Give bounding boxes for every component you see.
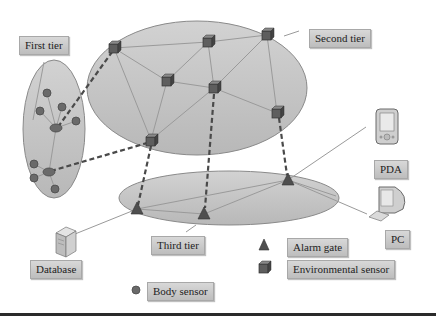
body-hub-icon xyxy=(43,168,55,176)
environmental-sensor-icon xyxy=(272,106,284,118)
first-tier-label: First tier xyxy=(19,36,69,55)
environmental-sensor-icon xyxy=(162,74,174,86)
legend-alarm-gate-label: Alarm gate xyxy=(287,238,348,257)
legend-body-sensor-icon xyxy=(132,286,140,294)
pda-icon xyxy=(376,109,398,144)
environmental-sensor-icon xyxy=(209,81,221,93)
body-sensor-icon xyxy=(51,185,59,193)
bottom-rule xyxy=(0,313,436,316)
third-tier-ellipse xyxy=(119,171,339,225)
pc-label: PC xyxy=(385,230,410,249)
environmental-sensor-icon xyxy=(109,41,121,53)
body-hub-icon xyxy=(50,124,62,132)
body-sensor-icon xyxy=(72,117,80,125)
third-tier-label: Third tier xyxy=(151,236,205,255)
body-sensor-icon xyxy=(58,103,66,111)
body-sensor-icon xyxy=(30,174,38,182)
legend-environmental-sensor-icon xyxy=(259,261,271,273)
legend-alarm-gate-icon xyxy=(259,239,269,250)
legend-body-sensor-label: Body sensor xyxy=(147,282,214,301)
environmental-sensor-icon xyxy=(203,35,215,47)
body-sensor-icon xyxy=(43,89,51,97)
pc-icon xyxy=(369,187,405,221)
database-label: Database xyxy=(30,260,82,279)
body-sensor-icon xyxy=(36,107,44,115)
database-server-icon xyxy=(56,227,76,257)
body-sensor-icon xyxy=(30,160,38,168)
environmental-sensor-icon xyxy=(262,28,274,40)
legend-environmental-sensor-label: Environmental sensor xyxy=(287,260,395,279)
environmental-sensor-icon xyxy=(146,134,158,146)
second-tier-label: Second tier xyxy=(309,29,371,48)
pda-label: PDA xyxy=(374,160,408,179)
